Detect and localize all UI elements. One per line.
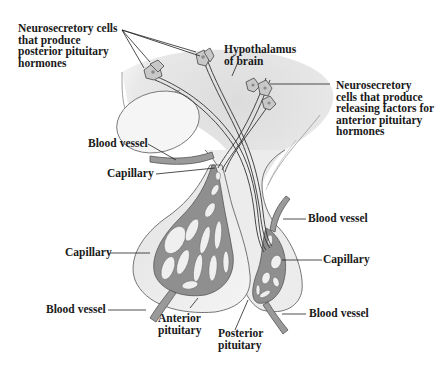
label-hypothalamus: Hypothalamus of brain bbox=[224, 44, 296, 67]
label-blood-vessel-lower-left: Blood vessel bbox=[46, 304, 106, 316]
label-posterior-pituitary: Posterior pituitary bbox=[218, 328, 263, 351]
label-neurosecretory-posterior: Neurosecretory cells that produce poster… bbox=[18, 23, 118, 69]
label-blood-vessel-upper-right: Blood vessel bbox=[308, 213, 368, 225]
label-capillary-left: Capillary bbox=[65, 247, 112, 259]
label-capillary-upper-left: Capillary bbox=[107, 168, 154, 180]
label-capillary-right: Capillary bbox=[323, 254, 370, 266]
label-neurosecretory-anterior: Neurosecretory cells that produce releas… bbox=[336, 80, 434, 138]
label-anterior-pituitary: Anterior pituitary bbox=[158, 313, 201, 336]
label-blood-vessel-upper-left: Blood vessel bbox=[88, 138, 148, 150]
label-blood-vessel-lower-right: Blood vessel bbox=[309, 308, 369, 320]
